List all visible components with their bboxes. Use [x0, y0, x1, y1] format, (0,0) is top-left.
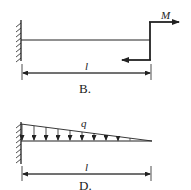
distributed-load-icon — [21, 124, 152, 141]
figure-b: M l B. — [16, 9, 179, 96]
fixed-support-wall-icon — [16, 122, 21, 164]
moment-couple-icon — [122, 22, 179, 60]
figure-d: q l D. — [16, 117, 152, 190]
load-label: q — [81, 117, 87, 129]
moment-label: M — [160, 9, 171, 21]
fixed-support-wall-icon — [16, 20, 21, 62]
length-label: l — [85, 60, 88, 72]
caption-b: B. — [79, 81, 91, 96]
length-label: l — [85, 161, 88, 173]
caption-d: D. — [79, 178, 92, 190]
beam-diagrams: M l B. — [0, 0, 191, 190]
